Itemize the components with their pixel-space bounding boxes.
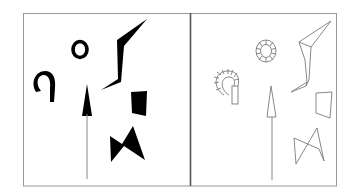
quadrilateral [131, 91, 147, 116]
segmented-hook-shape [214, 69, 239, 104]
figure: Two-panel figure: left panel shows solid… [0, 0, 354, 196]
figure-canvas [0, 0, 354, 196]
segmented-ring [256, 40, 276, 62]
lightning-bolt-polygon [101, 19, 147, 90]
quadrilateral-outline [316, 92, 332, 118]
bowtie [110, 126, 145, 162]
outer-frame [24, 14, 337, 187]
hook-shape [34, 71, 56, 102]
ring [73, 42, 87, 58]
bowtie-outline [294, 128, 324, 164]
arrow-outline [267, 86, 276, 180]
right-panel [214, 21, 332, 180]
left-panel [34, 19, 147, 179]
arrow-head [82, 84, 92, 116]
lightning-bolt-outline [291, 21, 331, 92]
